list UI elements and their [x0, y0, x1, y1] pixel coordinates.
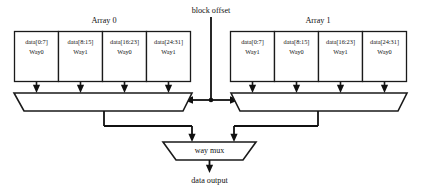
- array-1-cell-3-way: Way0: [377, 48, 392, 55]
- way-mux-label: way mux: [195, 146, 225, 155]
- array-1-cell-2-way: Way1: [333, 48, 348, 55]
- array-0-cell-1-way: Way1: [73, 48, 88, 55]
- data-output-label: data output: [191, 176, 228, 185]
- array-0-cell-0-range: data[0:7]: [25, 38, 48, 46]
- array-0-title: Array 0: [91, 16, 116, 25]
- array-0-offset-mux: [14, 93, 192, 111]
- array-0-mux-output-arrowhead: [188, 134, 195, 142]
- array-1-cell-0-way: Way1: [245, 48, 260, 55]
- array-0-cell-1-range: data[8:15]: [68, 38, 94, 46]
- array-1-cell-1-range: data[8:15]: [284, 38, 310, 46]
- array-1-cell-2-arrowhead: [337, 85, 344, 93]
- array-0-cell-3-range: data[24:31]: [154, 38, 183, 46]
- array-1-cell-0-arrowhead: [249, 85, 256, 93]
- data-output-arrowhead: [206, 165, 213, 173]
- array-0-cell-0-arrowhead: [33, 85, 40, 93]
- array-1-cell-1-way: Way0: [289, 48, 304, 55]
- array-0-cell-3-way: Way1: [161, 48, 176, 55]
- diagram-canvas: block offset Array 0 data[0:7] Way0 data…: [0, 0, 421, 188]
- array-1-title: Array 1: [305, 16, 330, 25]
- array-0-group: Array 0 data[0:7] Way0 data[8:15] Way1 d…: [15, 16, 191, 93]
- array-1-cell-1-arrowhead: [293, 85, 300, 93]
- array-0-cell-2-arrowhead: [121, 85, 128, 93]
- array-0-cell-0-way: Way0: [29, 48, 44, 55]
- array-1-cell-3-range: data[24:31]: [370, 38, 399, 46]
- array-0-cell-2-range: data[16:23]: [110, 38, 139, 46]
- cache-array-diagram: block offset Array 0 data[0:7] Way0 data…: [0, 0, 421, 188]
- array-1-mux-output-arrowhead: [230, 134, 237, 142]
- array-1-offset-mux: [231, 93, 407, 111]
- array-0-cell-3-arrowhead: [165, 85, 172, 93]
- array-1-cell-2-range: data[16:23]: [326, 38, 355, 46]
- array-0-cell-2-way: Way0: [117, 48, 132, 55]
- array-1-cell-3-arrowhead: [381, 85, 388, 93]
- array-1-group: Array 1 data[0:7] Way1 data[8:15] Way0 d…: [231, 16, 407, 93]
- array-0-cell-1-arrowhead: [77, 85, 84, 93]
- array-1-cell-0-range: data[0:7]: [241, 38, 264, 46]
- block-offset-label: block offset: [192, 6, 231, 15]
